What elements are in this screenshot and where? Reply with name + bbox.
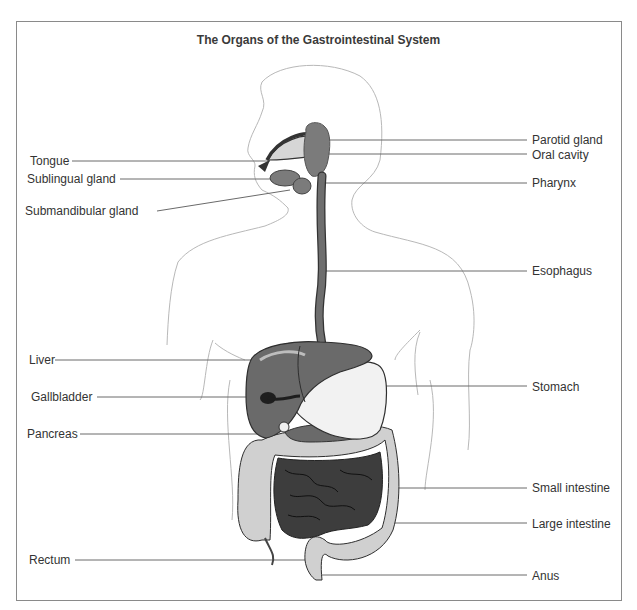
label-rectum: Rectum: [29, 553, 70, 567]
label-sublingual-gland: Sublingual gland: [27, 172, 116, 186]
label-pancreas: Pancreas: [27, 427, 78, 441]
label-esophagus: Esophagus: [532, 264, 592, 278]
label-liver: Liver: [29, 353, 55, 367]
label-small-intestine: Small intestine: [532, 481, 610, 495]
small-intestine-shape: [274, 452, 383, 538]
label-oral-cavity: Oral cavity: [532, 148, 589, 162]
label-gallbladder: Gallbladder: [31, 390, 92, 404]
label-pharynx: Pharynx: [532, 176, 576, 190]
label-anus: Anus: [532, 569, 559, 583]
label-tongue: Tongue: [30, 154, 69, 168]
label-stomach: Stomach: [532, 380, 579, 394]
label-submandibular-gland: Submandibular gland: [25, 204, 138, 218]
label-parotid-gland: Parotid gland: [532, 133, 603, 147]
label-large-intestine: Large intestine: [532, 517, 611, 531]
